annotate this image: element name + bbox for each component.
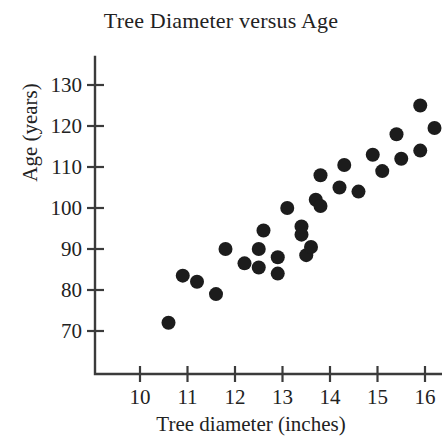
x-tick-label: 10	[130, 385, 151, 409]
data-point	[337, 158, 351, 172]
data-point	[238, 256, 252, 270]
y-tick-label: 70	[61, 319, 82, 343]
x-tick-label: 13	[272, 385, 293, 409]
data-point	[413, 99, 427, 113]
plot-area: 708090100110120130 10111213141516	[0, 0, 442, 443]
data-point	[271, 250, 285, 264]
data-point	[375, 164, 389, 178]
data-point	[295, 219, 309, 233]
data-point	[304, 240, 318, 254]
data-point	[176, 269, 190, 283]
data-point	[162, 316, 176, 330]
scatter-plot-figure: Tree Diameter versus Age Age (years) Tre…	[0, 0, 442, 443]
axes	[95, 57, 441, 374]
data-point	[280, 201, 294, 215]
y-tick-label: 110	[51, 155, 82, 179]
data-point	[352, 185, 366, 199]
x-tick-label: 11	[177, 385, 197, 409]
data-point	[394, 152, 408, 166]
x-tick-label: 12	[225, 385, 246, 409]
data-points	[162, 99, 442, 330]
data-point	[333, 181, 347, 195]
y-tick-label: 100	[51, 196, 83, 220]
axis-lines	[95, 57, 441, 374]
data-point	[252, 242, 266, 256]
data-point	[366, 148, 380, 162]
data-point	[190, 275, 204, 289]
data-point	[271, 267, 285, 281]
y-tick-label: 120	[51, 114, 83, 138]
data-point	[428, 121, 442, 135]
x-axis-ticks: 10111213141516	[130, 366, 436, 409]
y-tick-label: 80	[61, 278, 82, 302]
x-tick-label: 14	[320, 385, 342, 409]
data-point	[257, 224, 271, 238]
data-point	[209, 287, 223, 301]
data-point	[314, 168, 328, 182]
y-tick-label: 130	[51, 73, 83, 97]
data-point	[252, 260, 266, 274]
x-tick-label: 16	[415, 385, 436, 409]
data-point	[413, 144, 427, 158]
data-point	[314, 199, 328, 213]
data-point	[390, 127, 404, 141]
y-tick-label: 90	[61, 237, 82, 261]
x-tick-label: 15	[367, 385, 388, 409]
data-point	[219, 242, 233, 256]
